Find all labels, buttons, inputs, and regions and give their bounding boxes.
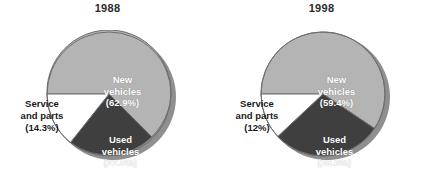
chart-title-1998: 1998 (214, 2, 429, 14)
slice-label-line1: Service (4, 98, 80, 110)
slice-label-line2: and parts (218, 110, 296, 122)
slice-label-percent: (12%) (218, 122, 296, 134)
slice-label-service-and-parts-1988: Service and parts (14.3%) (4, 98, 80, 134)
slice-label-service-and-parts-1998: Service and parts (12%) (218, 98, 296, 134)
pie-slices-1998 (259, 30, 391, 162)
pie-chart-figure: 1988 New vehicles (62.9%) Used vehicl (0, 0, 429, 170)
slice-label-percent: (14.3%) (4, 122, 80, 134)
chart-panel-1998: 1998 New vehicles (59.4%) Used vehicles (214, 0, 429, 170)
pie-slices-1988 (45, 30, 177, 162)
slice-label-line1: Service (218, 98, 296, 110)
chart-title-1988: 1988 (0, 2, 215, 14)
pie-1988: New vehicles (62.9%) Used vehicles (22.8… (45, 30, 177, 162)
slice-label-line2: and parts (4, 110, 80, 122)
pie-1998: New vehicles (59.4%) Used vehicles (28.6… (259, 30, 391, 162)
chart-panel-1988: 1988 New vehicles (62.9%) Used vehicl (0, 0, 215, 170)
